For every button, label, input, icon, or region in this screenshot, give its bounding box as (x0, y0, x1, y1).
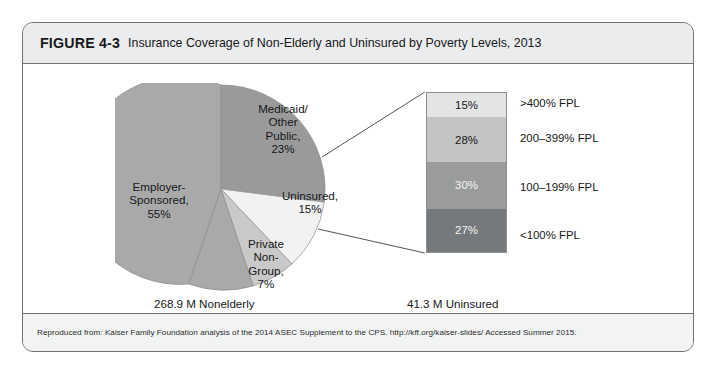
chart-plot-area: Medicaid/ Other Public, 23% Employer- Sp… (23, 64, 693, 314)
figure-header: FIGURE 4-3 Insurance Coverage of Non-Eld… (23, 23, 693, 64)
figure-caption: Insurance Coverage of Non-Elderly and Un… (128, 36, 541, 50)
figure-number: FIGURE 4-3 (40, 35, 120, 51)
fpl-label-200-399: 200–399% FPL (520, 132, 599, 144)
source-text: Reproduced from: Kaiser Family Foundatio… (37, 328, 577, 337)
pie-chart: Medicaid/ Other Public, 23% Employer- Sp… (115, 83, 327, 295)
pie-label-medicaid: Medicaid/ Other Public, 23% (246, 102, 320, 156)
pie-total-label: 268.9 M Nonelderly (154, 297, 255, 310)
bar-segment-100-199: 30% (427, 162, 506, 209)
fpl-label-400plus: >400% FPL (520, 97, 580, 109)
stacked-bar-chart: 15% 28% 30% 27% (426, 92, 507, 253)
bar-segment-value: 27% (455, 224, 478, 236)
fpl-label-100-199: 100–199% FPL (520, 181, 599, 193)
fpl-label-under-100: <100% FPL (520, 229, 580, 241)
bar-segment-under-100: 27% (427, 209, 506, 252)
bar-total-label: 41.3 M Uninsured (407, 297, 499, 310)
bar-segment-200-399: 28% (427, 117, 506, 161)
bar-segment-value: 15% (455, 99, 478, 111)
bar-segment-value: 30% (455, 179, 478, 191)
bar-segment-value: 28% (455, 134, 478, 146)
pie-label-employer: Employer- Sponsored, 55% (117, 180, 201, 220)
pie-label-uninsured: Uninsured, 15% (273, 189, 347, 216)
figure-source-footer: Reproduced from: Kaiser Family Foundatio… (23, 313, 693, 351)
bar-segment-400plus: 15% (427, 93, 506, 117)
figure-frame: FIGURE 4-3 Insurance Coverage of Non-Eld… (22, 22, 694, 352)
pie-label-private: Private Non- Group, 7% (238, 237, 294, 291)
